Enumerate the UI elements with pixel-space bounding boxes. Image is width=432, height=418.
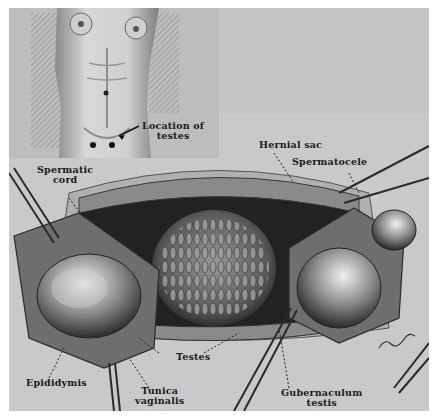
- artist-signature: [379, 334, 415, 348]
- label-tunica-vaginalis: Tunica vaginalis: [135, 386, 184, 406]
- surgical-illustration: [9, 8, 429, 411]
- label-hernial-sac: Hernial sac: [259, 140, 322, 150]
- label-spermatocele: Spermatocele: [292, 157, 367, 167]
- label-testes: Testes: [176, 352, 210, 362]
- label-location-of-testes: Location of testes: [142, 121, 204, 141]
- label-epididymis: Epididymis: [26, 378, 87, 388]
- illustration-plate: Location of testes Spermatic cord Hernia…: [9, 8, 429, 411]
- label-gubernaculum-testis: Gubernaculum testis: [281, 388, 362, 408]
- label-spermatic-cord: Spermatic cord: [37, 165, 93, 185]
